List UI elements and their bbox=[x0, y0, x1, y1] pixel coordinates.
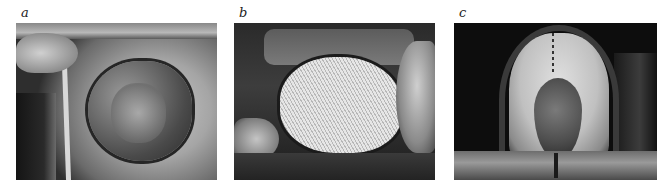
retractor-rod bbox=[62, 63, 71, 180]
side-drape bbox=[614, 53, 657, 153]
photo-panel-a bbox=[16, 23, 217, 180]
mesh-patch bbox=[280, 57, 402, 153]
bottom-drape bbox=[234, 153, 435, 180]
hand-right bbox=[396, 41, 435, 153]
shadow-region bbox=[16, 93, 56, 180]
panel-label-c: c bbox=[459, 5, 466, 20]
suture-line bbox=[552, 33, 554, 73]
panel-label-a: a bbox=[21, 5, 29, 20]
photo-panel-c bbox=[454, 23, 657, 180]
panel-label-b: b bbox=[239, 5, 247, 20]
hand bbox=[16, 33, 78, 73]
flap-pedicle bbox=[554, 153, 558, 178]
wound-highlight bbox=[111, 83, 166, 143]
photo-panel-b bbox=[234, 23, 435, 180]
